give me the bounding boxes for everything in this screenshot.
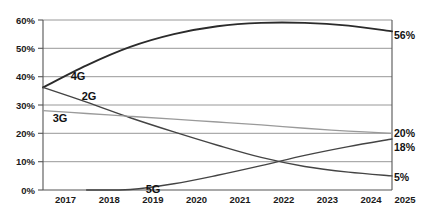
series-line-5g [87, 139, 392, 190]
series-label-4g: 4G [71, 70, 86, 82]
series-label-2g: 2G [82, 90, 97, 102]
end-label-5g: 18% [394, 141, 416, 153]
ytick-label-50: 50% [16, 43, 36, 54]
ytick-label-60: 60% [16, 15, 36, 26]
series-label-5g: 5G [146, 183, 161, 195]
xtick-label-2021: 2021 [230, 194, 252, 205]
ytick-label-10: 10% [16, 156, 36, 167]
series-label-3g: 3G [53, 112, 68, 124]
ytick-label-0: 0% [21, 185, 35, 196]
chart-container: 60% 50% 40% 30% 20% 10% 0% 2017 2018 201… [0, 0, 428, 213]
ytick-label-40: 40% [16, 71, 36, 82]
data-series-group [43, 22, 392, 190]
ytick-label-30: 30% [16, 100, 36, 111]
series-line-4g [43, 22, 392, 87]
xtick-label-2025: 2025 [394, 194, 416, 205]
xtick-label-2019: 2019 [142, 194, 163, 205]
line-chart: 60% 50% 40% 30% 20% 10% 0% 2017 2018 201… [0, 0, 428, 213]
y-tick-marks [38, 20, 43, 190]
xtick-label-2023: 2023 [317, 194, 338, 205]
xtick-label-2018: 2018 [99, 194, 120, 205]
end-value-labels: 56% 20% 18% 5% [394, 29, 416, 183]
x-tick-labels: 2017 2018 2019 2020 2021 2022 2023 2024 … [55, 194, 416, 205]
end-label-3g: 20% [394, 127, 416, 139]
series-inline-labels: 4G 2G 3G 5G [53, 70, 161, 195]
y-tick-labels: 60% 50% 40% 30% 20% 10% 0% [16, 15, 36, 196]
end-label-2g: 5% [394, 171, 410, 183]
xtick-label-2020: 2020 [186, 194, 207, 205]
end-label-4g: 56% [394, 29, 416, 41]
xtick-label-2022: 2022 [273, 194, 294, 205]
series-line-3g [43, 111, 392, 134]
xtick-label-2024: 2024 [360, 194, 382, 205]
ytick-label-20: 20% [16, 128, 36, 139]
xtick-label-2017: 2017 [55, 194, 76, 205]
